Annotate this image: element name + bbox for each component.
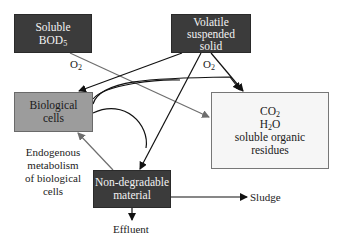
node-soluble-bod: Soluble BOD5 <box>14 14 92 53</box>
node-text: H2O <box>260 118 281 131</box>
node-text: suspended <box>187 28 235 40</box>
arrow-biocells-to-nondegradable <box>93 109 146 148</box>
label-sludge: Sludge <box>250 191 281 204</box>
node-volatile-suspended-solid: Volatile suspended solid <box>171 14 251 53</box>
node-text: Biological <box>30 99 78 112</box>
node-text: solid <box>200 40 222 52</box>
node-text: Soluble <box>35 21 70 34</box>
node-products: CO2 H2O soluble organic residues <box>211 92 329 169</box>
node-text: residues <box>251 144 289 157</box>
node-text: Volatile <box>193 16 229 28</box>
node-text: BOD5 <box>39 34 67 47</box>
node-text: material <box>113 189 151 202</box>
node-text: CO2 <box>260 105 280 118</box>
label-endogenous-metabolism: Endogenous metabolism of biological cell… <box>20 146 86 198</box>
node-non-degradable-material: Non-degradable material <box>93 170 171 208</box>
node-text: Non-degradable <box>95 176 169 189</box>
node-text: cells <box>43 112 64 125</box>
label-effluent: Effluent <box>113 223 149 236</box>
node-text: soluble organic <box>235 131 305 144</box>
label-o2-right: O2 <box>203 58 215 71</box>
label-o2-left: O2 <box>70 58 82 71</box>
arrow-volatile-to-products <box>211 53 243 91</box>
arrow-volatile-to-biocells <box>79 53 182 91</box>
node-biological-cells: Biological cells <box>14 92 93 132</box>
arrow-volatile-to-nondegradable <box>140 53 201 169</box>
